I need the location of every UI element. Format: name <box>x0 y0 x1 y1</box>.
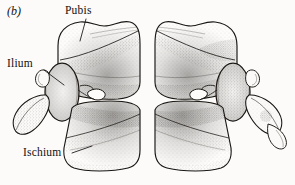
figure-panel: (b) Pubis Ilium Ischium <box>0 0 295 185</box>
right-innominate <box>150 20 286 176</box>
label-pubis: Pubis <box>65 5 92 17</box>
label-ilium: Ilium <box>7 58 33 70</box>
label-ischium: Ischium <box>23 147 61 159</box>
panel-letter: (b) <box>7 4 21 19</box>
right-ischium <box>150 98 236 176</box>
left-ischium <box>60 98 145 176</box>
